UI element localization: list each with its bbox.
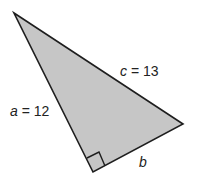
hypotenuse-value: = 13 [127,63,159,79]
side-a-variable: a [10,103,18,119]
triangle-shape [14,13,183,172]
hypotenuse-variable: c [120,63,127,79]
side-a-label: a = 12 [10,104,49,118]
side-b-variable: b [139,154,147,170]
hypotenuse-label: c = 13 [120,64,159,78]
side-a-value: = 12 [18,103,50,119]
right-triangle-diagram: c = 13 a = 12 b [0,0,198,184]
triangle-figure [0,0,198,184]
side-b-label: b [139,155,147,169]
